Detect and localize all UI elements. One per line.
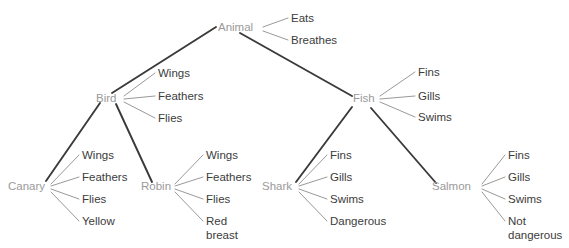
edge-salmon-fins: [482, 155, 505, 184]
concept-nodes: Animal Bird Fish Canary Robin Shark Salm…: [8, 21, 471, 192]
edge-robin-wings: [175, 155, 203, 184]
property-robin-wings: Wings: [206, 149, 238, 161]
edge-animal-eats: [263, 18, 288, 27]
property-animal-eats: Eats: [291, 12, 314, 24]
property-bird-wings: Wings: [158, 67, 190, 79]
node-fish[interactable]: Fish: [353, 92, 375, 104]
property-salmon-not: Not: [508, 215, 527, 227]
property-canary-yellow: Yellow: [82, 215, 116, 227]
node-canary[interactable]: Canary: [8, 180, 45, 192]
edge-robin-flies: [175, 189, 203, 199]
property-shark-fins: Fins: [330, 149, 352, 161]
edge-shark-dangerous: [299, 192, 327, 221]
edge-salmon-swims: [482, 189, 505, 199]
edge-bird-feathers: [124, 96, 155, 99]
property-salmon-fins: Fins: [508, 149, 530, 161]
node-salmon[interactable]: Salmon: [432, 180, 471, 192]
edge-canary-yellow: [51, 192, 79, 221]
edge-animal-bird: [112, 27, 216, 93]
edge-shark-swims: [299, 189, 327, 199]
edge-fish-swims: [380, 102, 415, 117]
edge-fish-fins: [380, 72, 415, 96]
edge-shark-gills: [299, 177, 327, 186]
property-canary-flies: Flies: [82, 193, 107, 205]
property-salmon-dangerous: dangerous: [508, 229, 563, 241]
semantic-network-canvas: Animal Bird Fish Canary Robin Shark Salm…: [0, 0, 569, 248]
property-bird-feathers: Feathers: [158, 90, 204, 102]
edge-canary-feathers: [51, 177, 79, 186]
property-labels: Eats Breathes Wings Feathers Flies Fins …: [82, 12, 563, 241]
edge-robin-feathers: [175, 177, 203, 186]
edge-bird-flies: [124, 102, 155, 118]
property-bird-flies: Flies: [158, 112, 183, 124]
property-animal-breathes: Breathes: [291, 34, 337, 46]
property-fish-swims: Swims: [418, 111, 452, 123]
node-robin[interactable]: Robin: [141, 180, 171, 192]
property-robin-red: Red: [206, 215, 227, 227]
edge-fish-gills: [380, 96, 415, 99]
property-fish-gills: Gills: [418, 90, 441, 102]
node-shark[interactable]: Shark: [262, 180, 292, 192]
property-shark-gills: Gills: [330, 171, 353, 183]
property-shark-dangerous: Dangerous: [330, 215, 387, 227]
property-robin-feathers: Feathers: [206, 171, 252, 183]
edge-canary-wings: [51, 155, 79, 184]
node-animal[interactable]: Animal: [218, 21, 253, 33]
edge-canary-flies: [51, 189, 79, 199]
property-robin-flies: Flies: [206, 193, 231, 205]
semantic-network-diagram: Animal Bird Fish Canary Robin Shark Salm…: [0, 0, 569, 248]
property-robin-breast: breast: [206, 229, 239, 241]
property-salmon-gills: Gills: [508, 171, 531, 183]
edge-robin-redbreast: [175, 192, 203, 221]
property-canary-feathers: Feathers: [82, 171, 128, 183]
property-shark-swims: Swims: [330, 193, 364, 205]
property-canary-wings: Wings: [82, 149, 114, 161]
edge-animal-breathes: [263, 31, 288, 40]
edge-salmon-gills: [482, 177, 505, 186]
node-bird[interactable]: Bird: [96, 92, 116, 104]
property-salmon-swims: Swims: [508, 193, 542, 205]
property-fish-fins: Fins: [418, 66, 440, 78]
edge-salmon-notdangerous: [482, 192, 505, 221]
edge-bird-canary: [46, 103, 100, 181]
